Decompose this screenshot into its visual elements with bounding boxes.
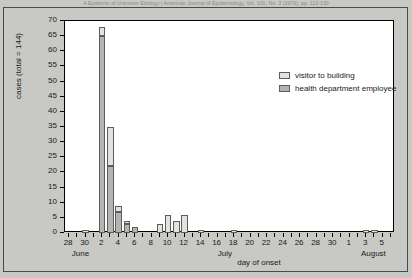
y-axis-tick-label: 10 <box>31 198 57 206</box>
legend-label-visitor: visitor to building <box>295 69 355 82</box>
bar-segment-visitor <box>173 221 179 233</box>
x-axis-tick-mark <box>85 233 86 237</box>
x-axis-tick-mark <box>340 233 341 237</box>
x-axis-tick-mark <box>167 233 168 237</box>
x-axis-tick-mark <box>283 233 284 237</box>
x-axis-tick-mark <box>373 233 374 237</box>
y-axis-tick-label: 45 <box>31 92 57 100</box>
x-axis-tick-mark <box>357 233 358 237</box>
bar-segment-visitor <box>165 215 171 233</box>
bars-layer <box>65 21 393 231</box>
bar-segment-employee <box>99 36 105 233</box>
figure-frame: cases (total = 144) 05101520253035404550… <box>3 7 408 272</box>
x-axis-title: day of onset <box>159 258 359 267</box>
x-axis-tick-mark <box>208 233 209 237</box>
x-axis-month-label: July <box>195 249 255 258</box>
x-axis-tick-mark <box>101 233 102 237</box>
x-axis-tick-mark <box>159 233 160 237</box>
x-axis-tick-mark <box>142 233 143 237</box>
y-axis-tick-label: 25 <box>31 152 57 160</box>
x-axis-tick-mark <box>258 233 259 237</box>
y-axis-tick-label: 5 <box>31 213 57 221</box>
x-axis-tick-mark <box>324 233 325 237</box>
y-axis-tick-label: 60 <box>31 46 57 54</box>
x-axis-tick-mark <box>134 233 135 237</box>
x-axis-tick-mark <box>266 233 267 237</box>
x-axis-tick-mark <box>184 233 185 237</box>
legend-swatch-employee <box>279 85 290 92</box>
y-axis-tick-label: 15 <box>31 183 57 191</box>
x-axis-tick-mark <box>200 233 201 237</box>
legend-swatch-visitor <box>279 72 290 79</box>
y-axis-tick-label: 70 <box>31 16 57 24</box>
x-axis-tick-mark <box>332 233 333 237</box>
x-axis-tick-mark <box>68 233 69 237</box>
bar-segment-employee <box>124 224 130 233</box>
x-axis-tick-mark <box>118 233 119 237</box>
x-axis-tick-mark <box>291 233 292 237</box>
legend-label-employee: health department employee <box>295 82 396 95</box>
y-axis-tick-label: 20 <box>31 167 57 175</box>
x-axis-tick-mark <box>175 233 176 237</box>
bar-segment-employee <box>115 212 121 233</box>
journal-header-line: A Epidemic of Unknown Etiology | America… <box>0 0 412 7</box>
x-axis-tick-mark <box>109 233 110 237</box>
y-axis-tick-label: 55 <box>31 61 57 69</box>
x-axis-tick-mark <box>233 233 234 237</box>
x-axis-tick-mark <box>307 233 308 237</box>
x-axis-tick-mark <box>316 233 317 237</box>
y-axis-tick-label: 40 <box>31 107 57 115</box>
x-axis-tick-mark <box>299 233 300 237</box>
x-axis-tick-mark <box>93 233 94 237</box>
x-axis-tick-mark <box>365 233 366 237</box>
bar-segment-visitor <box>107 127 113 166</box>
y-axis-tick-label: 0 <box>31 228 57 236</box>
y-axis-tick-label: 65 <box>31 31 57 39</box>
x-axis-tick-mark <box>390 233 391 237</box>
x-axis-tick-mark <box>126 233 127 237</box>
x-axis-tick-mark <box>274 233 275 237</box>
x-axis-tick-mark <box>382 233 383 237</box>
x-axis-tick-mark <box>225 233 226 237</box>
x-axis-month-label: August <box>343 249 403 258</box>
x-axis-tick-mark <box>349 233 350 237</box>
plot-area: visitor to building health department em… <box>64 20 394 232</box>
y-axis-tick-mark <box>60 232 64 233</box>
bar-segment-visitor <box>124 221 130 224</box>
x-axis-tick-mark <box>151 233 152 237</box>
x-axis-tick-mark <box>217 233 218 237</box>
y-axis-tick-label: 30 <box>31 137 57 145</box>
y-axis-tick-label: 50 <box>31 77 57 85</box>
x-axis-tick-mark <box>76 233 77 237</box>
bar-segment-visitor <box>157 224 163 233</box>
bar-segment-visitor <box>115 206 121 212</box>
bar-segment-visitor <box>99 27 105 36</box>
y-axis-tick-label: 35 <box>31 122 57 130</box>
figure-page: A Epidemic of Unknown Etiology | America… <box>0 0 412 278</box>
x-axis-tick-mark <box>241 233 242 237</box>
x-axis-tick-label: 5 <box>372 238 392 247</box>
bar-segment-visitor <box>181 215 187 233</box>
x-axis-tick-mark <box>250 233 251 237</box>
y-axis-title: cases (total = 144) <box>13 1 25 131</box>
x-axis-tick-mark <box>192 233 193 237</box>
x-axis-month-label: June <box>51 249 111 258</box>
bar-segment-employee <box>107 166 113 233</box>
